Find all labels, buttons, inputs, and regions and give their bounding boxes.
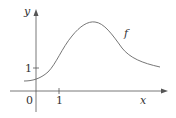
origin-label: 0 (26, 94, 33, 107)
curve-f (24, 22, 160, 81)
function-graph: y x f 0 1 1 (0, 0, 176, 118)
x-axis-arrow-icon (161, 89, 168, 94)
curve-label: f (123, 27, 130, 40)
y-axis-label: y (23, 5, 31, 18)
x-axis-label: x (140, 94, 147, 107)
x-tick-label-1: 1 (56, 94, 63, 107)
y-axis-arrow-icon (34, 9, 39, 16)
y-tick-label-1: 1 (25, 62, 32, 75)
